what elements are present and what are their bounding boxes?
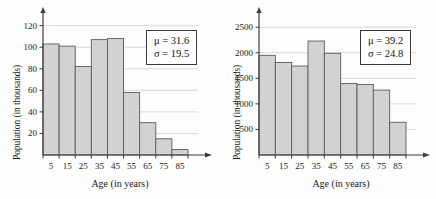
x-tick-65: 65 [143, 161, 152, 171]
x-tick-5: 5 [49, 161, 54, 171]
y-tick-2000: 2000 [235, 48, 253, 58]
bar-65 [140, 123, 156, 155]
x-tick-55: 55 [344, 161, 353, 171]
bar-45 [107, 39, 123, 155]
x-tick-85: 85 [175, 161, 184, 171]
bar-55 [341, 83, 357, 155]
y-tick-2500: 2500 [235, 22, 253, 32]
figure-pair: Population (in thousands) Age (in years)… [0, 0, 436, 199]
x-tick-75: 75 [377, 161, 386, 171]
mean-value-right: μ = 39.2 [368, 34, 403, 47]
x-tick-85: 85 [393, 161, 402, 171]
x-tick-55: 55 [127, 161, 136, 171]
bar-35 [308, 41, 324, 155]
bar-15 [275, 62, 291, 155]
bar-85 [172, 150, 188, 155]
x-axis-label-right: Age (in years) [276, 178, 406, 189]
stddev-value-left: σ = 19.5 [154, 47, 189, 60]
y-tick-1500: 1500 [235, 73, 253, 83]
y-tick-20: 20 [28, 128, 37, 138]
stddev-value-right: σ = 24.8 [368, 47, 403, 60]
bar-75 [373, 90, 389, 155]
x-tick-35: 35 [95, 161, 104, 171]
stats-box-left: μ = 31.6 σ = 19.5 [146, 30, 197, 65]
x-tick-25: 25 [79, 161, 88, 171]
bar-85 [390, 122, 406, 155]
histogram-right: Population (in thousands) Age (in years)… [218, 0, 436, 199]
mean-value-left: μ = 31.6 [154, 34, 189, 47]
bar-15 [59, 46, 75, 155]
bar-25 [75, 67, 91, 155]
x-tick-45: 45 [328, 161, 337, 171]
bar-35 [91, 40, 107, 155]
bar-55 [124, 92, 140, 155]
x-tick-5: 5 [265, 161, 270, 171]
x-tick-75: 75 [159, 161, 168, 171]
bar-45 [324, 53, 340, 155]
x-tick-45: 45 [111, 161, 120, 171]
bar-5 [43, 44, 59, 155]
y-tick-60: 60 [28, 85, 37, 95]
y-tick-120: 120 [24, 21, 38, 31]
y-axis-label-left: Population (in thousands) [12, 65, 22, 160]
x-tick-65: 65 [361, 161, 370, 171]
x-axis-label-left: Age (in years) [55, 178, 185, 189]
y-tick-500: 500 [240, 124, 254, 134]
x-tick-35: 35 [312, 161, 321, 171]
x-tick-25: 25 [295, 161, 304, 171]
bar-65 [357, 84, 373, 155]
stats-box-right: μ = 39.2 σ = 24.8 [360, 30, 411, 65]
bar-75 [156, 139, 172, 155]
y-tick-40: 40 [28, 107, 37, 117]
x-tick-15: 15 [279, 161, 288, 171]
bar-5 [259, 55, 275, 155]
bar-25 [292, 66, 308, 155]
histogram-left: Population (in thousands) Age (in years)… [0, 0, 218, 199]
y-tick-1000: 1000 [235, 99, 253, 109]
y-tick-100: 100 [24, 42, 38, 52]
y-tick-80: 80 [28, 64, 37, 74]
x-tick-15: 15 [63, 161, 72, 171]
